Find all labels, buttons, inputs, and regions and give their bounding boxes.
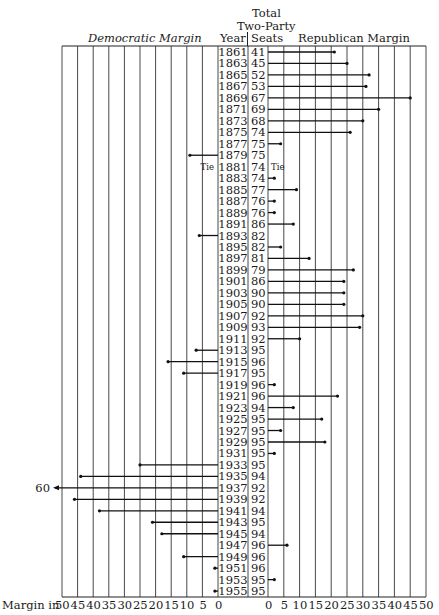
bar-end-dot — [198, 234, 201, 237]
seats-label: 95 — [251, 584, 266, 598]
bar-end-dot — [213, 589, 216, 592]
bar-end-dot — [273, 211, 276, 214]
bar-end-dot — [368, 73, 371, 76]
bar-end-dot — [364, 85, 367, 88]
bar-end-dot — [285, 544, 288, 547]
bar-end-dot — [342, 303, 345, 306]
margin-chart: 1861411863451865521867531869671871691873… — [0, 0, 439, 615]
right-axis-tick: 50 — [419, 598, 434, 612]
bar-end-dot — [352, 268, 355, 271]
right-axis-tick: 20 — [324, 598, 339, 612]
bar-end-dot — [345, 62, 348, 65]
left-axis-tick: 15 — [164, 598, 179, 612]
overflow-arrow-icon — [53, 485, 59, 490]
bar-end-dot — [342, 291, 345, 294]
left-axis-tick: 25 — [133, 598, 148, 612]
bar-end-dot — [195, 349, 198, 352]
bar-end-dot — [409, 96, 412, 99]
bar-end-dot — [182, 372, 185, 375]
bar-end-dot — [336, 395, 339, 398]
left-axis-tick: 35 — [102, 598, 117, 612]
right-axis-tick: 0 — [265, 598, 272, 612]
overflow-value-label: 60 — [35, 481, 50, 495]
left-axis-tick: 10 — [180, 598, 195, 612]
left-axis-tick: 40 — [86, 598, 101, 612]
bar-end-dot — [273, 177, 276, 180]
bar-end-dot — [342, 280, 345, 283]
right-axis-tick: 25 — [340, 598, 355, 612]
bar-end-dot — [279, 245, 282, 248]
bar-end-dot — [73, 498, 76, 501]
bar-end-dot — [213, 567, 216, 570]
bar-end-dot — [279, 429, 282, 432]
bar-end-dot — [349, 131, 352, 134]
left-axis-tick: 30 — [117, 598, 132, 612]
left-axis-tick: 45 — [71, 598, 86, 612]
bar-end-dot — [361, 314, 364, 317]
bar-end-dot — [138, 463, 141, 466]
bar-end-dot — [292, 222, 295, 225]
right-axis-tick: 40 — [387, 598, 402, 612]
bar-end-dot — [98, 509, 101, 512]
bar-end-dot — [182, 555, 185, 558]
bar-end-dot — [307, 257, 310, 260]
bar-end-dot — [292, 406, 295, 409]
bar-end-dot — [361, 119, 364, 122]
right-axis-tick: 5 — [281, 598, 288, 612]
bar-end-dot — [333, 50, 336, 53]
axis-title-margin-in: Margin in — [2, 598, 59, 612]
tie-label-right: Tie — [271, 162, 284, 172]
bar-end-dot — [273, 200, 276, 203]
right-axis-tick: 45 — [403, 598, 418, 612]
bar-end-dot — [166, 360, 169, 363]
tie-label-left: Tie — [201, 162, 214, 172]
bar-end-dot — [79, 475, 82, 478]
bar-end-dot — [377, 108, 380, 111]
left-axis-tick: 5 — [199, 598, 206, 612]
bar-end-dot — [320, 417, 323, 420]
left-axis-tick: 20 — [149, 598, 164, 612]
right-axis-tick: 10 — [293, 598, 308, 612]
left-axis-tick: 0 — [215, 598, 222, 612]
bar-end-dot — [273, 383, 276, 386]
left-axis-tick: 50 — [55, 598, 70, 612]
bar-end-dot — [160, 532, 163, 535]
bar-end-dot — [273, 578, 276, 581]
bar-end-dot — [298, 337, 301, 340]
bar-end-dot — [188, 154, 191, 157]
bar-end-dot — [279, 142, 282, 145]
year-label: 1955 — [218, 584, 247, 598]
right-axis-tick: 30 — [356, 598, 371, 612]
bar-end-dot — [273, 452, 276, 455]
bar-end-dot — [295, 188, 298, 191]
right-axis-tick: 15 — [308, 598, 323, 612]
bar-end-dot — [151, 521, 154, 524]
bar-end-dot — [358, 326, 361, 329]
bar-end-dot — [323, 440, 326, 443]
right-axis-tick: 35 — [372, 598, 387, 612]
